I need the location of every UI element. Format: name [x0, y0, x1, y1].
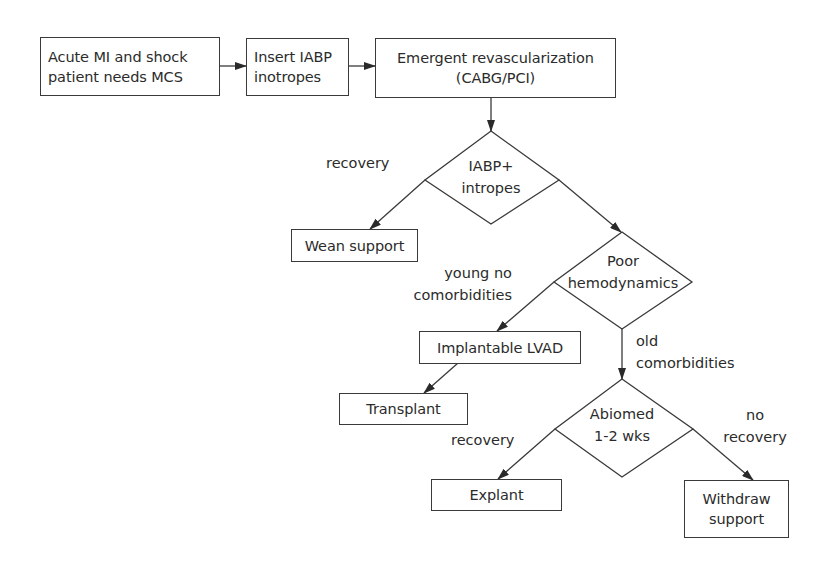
node-explant-label: Explant	[432, 485, 561, 505]
arrow-lvad-to-transplant	[424, 363, 458, 393]
edge-label-young: young no comorbidities	[400, 262, 512, 306]
node-wean-support: Wean support	[291, 229, 418, 262]
decision-iabp-line-1: IABP+	[441, 155, 541, 177]
edge-label-old-line-2: comorbidities	[636, 352, 734, 374]
node-start-line-1: Acute MI and shock	[48, 47, 219, 67]
node-transplant: Transplant	[339, 393, 468, 425]
edge-label-young-line-1: young no	[400, 262, 512, 284]
node-transplant-label: Transplant	[340, 399, 467, 419]
arrow-to-decision-hemodynamics	[559, 180, 621, 232]
edge-label-iabp-recovery: recovery	[326, 152, 389, 174]
node-revascularization-line-1: Emergent revascularization	[376, 48, 615, 68]
node-withdraw-support-line-2: support	[685, 509, 788, 529]
decision-hemodynamics-text: Poor hemodynamics	[562, 250, 684, 294]
decision-hemodynamics-line-1: Poor	[562, 250, 684, 272]
node-withdraw-support: Withdraw support	[684, 480, 789, 538]
edge-label-no-recovery-line-2: recovery	[715, 426, 795, 448]
edge-label-no-recovery: no recovery	[715, 404, 795, 448]
edge-label-no-recovery-line-1: no	[715, 404, 795, 426]
edge-label-abiomed-recovery-text: recovery	[451, 429, 514, 451]
node-insert-iabp-line-2: inotropes	[254, 67, 348, 87]
edge-label-young-line-2: comorbidities	[400, 284, 512, 306]
node-revascularization: Emergent revascularization (CABG/PCI)	[375, 38, 616, 98]
decision-iabp-text: IABP+ intropes	[441, 155, 541, 199]
decision-abiomed-line-1: Abiomed	[572, 403, 672, 425]
node-explant: Explant	[431, 479, 562, 511]
node-implantable-lvad: Implantable LVAD	[419, 331, 581, 364]
node-withdraw-support-line-1: Withdraw	[685, 489, 788, 509]
edge-label-old-line-1: old	[636, 330, 734, 352]
arrow-recovery-to-wean	[370, 180, 425, 229]
decision-iabp-line-2: intropes	[441, 177, 541, 199]
decision-abiomed-line-2: 1-2 wks	[572, 425, 672, 447]
node-insert-iabp: Insert IABP inotropes	[246, 38, 349, 96]
node-start: Acute MI and shock patient needs MCS	[40, 37, 220, 96]
node-insert-iabp-line-1: Insert IABP	[254, 47, 348, 67]
node-wean-support-label: Wean support	[292, 236, 417, 256]
decision-hemodynamics-line-2: hemodynamics	[562, 272, 684, 294]
decision-abiomed-text: Abiomed 1-2 wks	[572, 403, 672, 447]
node-revascularization-line-2: (CABG/PCI)	[376, 68, 615, 88]
edge-label-abiomed-recovery: recovery	[451, 429, 514, 451]
node-implantable-lvad-label: Implantable LVAD	[420, 338, 580, 358]
edge-label-old: old comorbidities	[636, 330, 734, 374]
node-start-line-2: patient needs MCS	[48, 67, 219, 87]
edge-label-iabp-recovery-text: recovery	[326, 152, 389, 174]
